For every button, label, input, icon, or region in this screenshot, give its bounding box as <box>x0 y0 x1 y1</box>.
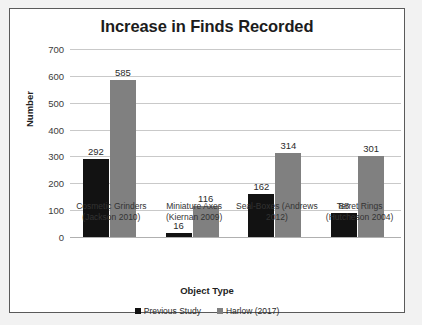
x-axis-category-line: (Hutcheson 2004) <box>312 212 407 223</box>
chart-frame: Increase in Finds Recorded Number 700600… <box>9 8 405 313</box>
bar[interactable]: 314 <box>275 153 301 237</box>
bar-value-label: 301 <box>363 143 379 154</box>
legend-label-previous-study: Previous Study <box>144 306 201 316</box>
x-axis-category-line: (Jackson 2010) <box>64 212 159 223</box>
y-axis-tick-600: 600 <box>48 70 64 81</box>
x-axis-category-line: (Kiernan 2009) <box>147 212 242 223</box>
y-axis-tick-500: 500 <box>48 97 64 108</box>
x-axis-category-label: Terret Rings(Hutcheson 2004) <box>312 201 407 223</box>
bar-value-label: 585 <box>115 67 131 78</box>
page-background: Increase in Finds Recorded Number 700600… <box>0 0 422 325</box>
bar-value-label: 314 <box>280 140 296 151</box>
legend-item-previous-study: Previous Study <box>135 306 201 316</box>
x-axis-category-line: Seal-Boxes (Andrews <box>230 201 325 212</box>
y-axis-tick-0: 0 <box>59 232 64 243</box>
bar[interactable]: 292 <box>83 159 109 237</box>
legend-label-harlow: Harlow (2017) <box>226 306 279 316</box>
legend-item-harlow: Harlow (2017) <box>217 306 279 316</box>
x-axis-category-line: Cosmetic Grinders <box>64 201 159 212</box>
bar[interactable]: 301 <box>358 156 384 237</box>
y-axis-tick-300: 300 <box>48 151 64 162</box>
y-axis-tick-400: 400 <box>48 124 64 135</box>
y-axis-tick-100: 100 <box>48 205 64 216</box>
bar[interactable]: 16 <box>166 233 192 237</box>
legend-swatch-harlow <box>217 308 223 314</box>
x-axis-category-label: Miniature Axes(Kiernan 2009) <box>147 201 242 223</box>
x-axis-category-label: Cosmetic Grinders(Jackson 2010) <box>64 201 159 223</box>
x-axis-title: Object Type <box>10 285 404 296</box>
chart-legend: Previous Study Harlow (2017) <box>10 306 404 316</box>
legend-swatch-previous-study <box>135 308 141 314</box>
y-axis-tick-700: 700 <box>48 44 64 55</box>
bar-value-label: 292 <box>88 146 104 157</box>
bar-value-label: 162 <box>253 181 269 192</box>
x-axis-category-line: 2012) <box>230 212 325 223</box>
chart-title: Increase in Finds Recorded <box>10 17 404 36</box>
x-axis-category-line: Terret Rings <box>312 201 407 212</box>
y-axis-tick-200: 200 <box>48 178 64 189</box>
x-axis-category-line: Miniature Axes <box>147 201 242 212</box>
y-axis-title: Number <box>24 91 35 127</box>
gridline-0 <box>70 237 401 238</box>
x-axis-category-label: Seal-Boxes (Andrews2012) <box>230 201 325 223</box>
